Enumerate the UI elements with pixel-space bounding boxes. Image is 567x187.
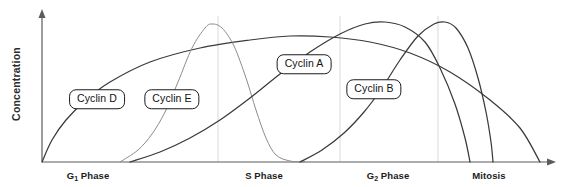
gridlines: [218, 16, 438, 162]
curve-label-cyclin-d: Cyclin D: [69, 89, 125, 109]
x-tick-label-s-phase: S Phase: [245, 170, 283, 181]
x-tick-label-g2-phase: G2 Phase: [367, 170, 410, 181]
cyclin-concentration-diagram: Concentration G1 PhaseS PhaseG2 PhaseMit…: [0, 0, 567, 187]
axes: [39, 9, 557, 166]
curve-label-cyclin-e: Cyclin E: [144, 89, 199, 109]
y-axis-title: Concentration: [10, 29, 22, 139]
curve-label-cyclin-a: Cyclin A: [277, 54, 332, 74]
y-axis-arrowhead: [39, 9, 46, 18]
x-tick-label-mitosis: Mitosis: [472, 170, 505, 181]
x-tick-label-g1-phase: G1 Phase: [67, 170, 110, 181]
x-axis-arrowhead: [547, 159, 556, 166]
curve-label-cyclin-b: Cyclin B: [346, 79, 401, 99]
